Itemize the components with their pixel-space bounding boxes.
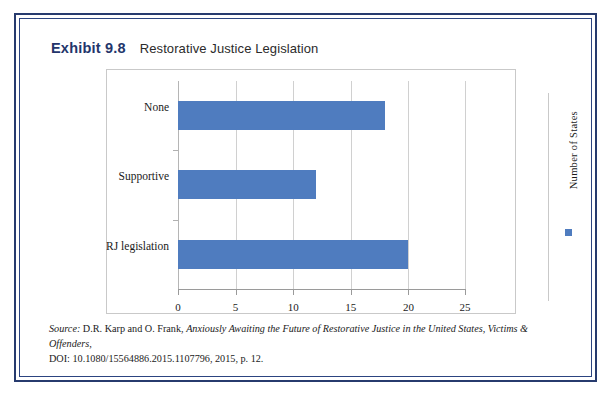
exhibit-body: Exhibit 9.8Restorative Justice Legislati…	[20, 19, 591, 376]
legend-swatch-icon	[565, 229, 572, 236]
x-tick-label-10: 10	[288, 301, 299, 313]
x-tick-mark-5	[236, 290, 237, 295]
y-tick-1	[173, 150, 178, 151]
exhibit-inner-frame: Exhibit 9.8Restorative Justice Legislati…	[19, 18, 592, 377]
source-lead: Source:	[49, 323, 80, 334]
bar-supportive: Supportive	[178, 170, 316, 199]
legend-divider	[548, 93, 549, 301]
x-tick-label-25: 25	[460, 301, 471, 313]
source-note: Source: D.R. Karp and O. Frank, Anxiousl…	[49, 322, 569, 366]
x-tick-mark-20	[408, 290, 409, 295]
category-label-rj-legislation: RJ legislation	[106, 240, 169, 252]
gridline-25	[465, 81, 466, 289]
exhibit-title: Exhibit 9.8Restorative Justice Legislati…	[51, 39, 318, 57]
x-tick-mark-0	[178, 290, 179, 295]
x-tick-label-15: 15	[345, 301, 356, 313]
x-tick-mark-15	[351, 290, 352, 295]
gridline-20	[408, 81, 409, 289]
exhibit-caption: Restorative Justice Legislation	[140, 41, 319, 56]
x-tick-label-0: 0	[175, 301, 181, 313]
category-label-supportive: Supportive	[119, 170, 169, 182]
x-tick-mark-25	[465, 290, 466, 295]
plot-area: None Supportive RJ legislation	[178, 81, 466, 289]
chart-legend: Number of States	[556, 111, 586, 281]
x-tick-label-5: 5	[233, 301, 239, 313]
exhibit-number: Exhibit 9.8	[51, 40, 126, 56]
source-doi: DOI: 10.1080/15564886.2015.1107796, 2015…	[49, 353, 263, 364]
x-tick-mark-10	[293, 290, 294, 295]
bar-none: None	[178, 101, 385, 130]
bar-rj-legislation: RJ legislation	[178, 240, 408, 269]
source-authors: D.R. Karp and O. Frank,	[80, 323, 186, 334]
exhibit-outer-frame: Exhibit 9.8Restorative Justice Legislati…	[14, 13, 597, 382]
bar-chart: None Supportive RJ legislation	[106, 69, 516, 314]
category-label-none: None	[144, 101, 169, 113]
legend-label: Number of States	[568, 111, 579, 189]
x-axis-line	[178, 289, 466, 290]
x-tick-label-20: 20	[403, 301, 414, 313]
y-tick-2	[173, 220, 178, 221]
